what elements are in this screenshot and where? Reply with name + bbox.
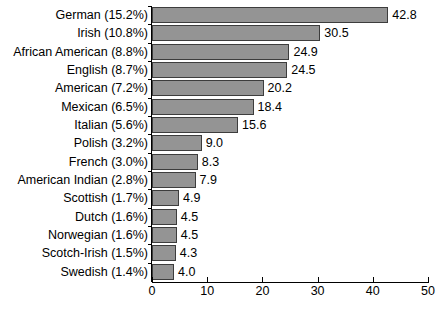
- bar-value-label: 30.5: [324, 27, 348, 40]
- value-axis-tick-label: 30: [311, 285, 325, 298]
- bar-row: French (3.0%)8.3: [152, 153, 428, 171]
- bar: [152, 117, 238, 133]
- bar-row: African American (8.8%)24.9: [152, 43, 428, 61]
- bar-row: English (8.7%)24.5: [152, 61, 428, 79]
- category-label: French (3.0%): [69, 156, 148, 169]
- bar-value-label: 24.5: [291, 64, 315, 77]
- bar: [152, 190, 179, 206]
- bar-value-label: 4.9: [183, 192, 200, 205]
- bar-row: Mexican (6.5%)18.4: [152, 98, 428, 116]
- bar-row: Irish (10.8%)30.5: [152, 24, 428, 42]
- bar: [152, 80, 264, 96]
- bar-value-label: 4.5: [181, 229, 198, 242]
- category-label: English (8.7%): [67, 64, 148, 77]
- bar: [152, 62, 287, 78]
- bar-value-label: 42.8: [392, 9, 416, 22]
- category-tick: [148, 244, 152, 245]
- bar-value-label: 18.4: [258, 101, 282, 114]
- bar: [152, 227, 177, 243]
- value-axis-tick-label: 20: [255, 285, 269, 298]
- bar-row: German (15.2%)42.8: [152, 6, 428, 24]
- bar-rows: German (15.2%)42.8Irish (10.8%)30.5Afric…: [152, 6, 428, 281]
- bar-chart: German (15.2%)42.8Irish (10.8%)30.5Afric…: [0, 0, 440, 309]
- category-label: American (7.2%): [55, 82, 148, 95]
- category-tick: [148, 226, 152, 227]
- bar: [152, 135, 202, 151]
- category-label: Dutch (1.6%): [75, 211, 148, 224]
- bar-value-label: 15.6: [242, 119, 266, 132]
- bar-value-label: 4.5: [181, 211, 198, 224]
- category-tick: [148, 43, 152, 44]
- category-label: Irish (10.8%): [77, 27, 148, 40]
- bar-row: Scotch-Irish (1.5%)4.3: [152, 244, 428, 262]
- value-axis-line: [152, 282, 429, 283]
- value-axis-tick-label: 10: [200, 285, 214, 298]
- category-label: Scotch-Irish (1.5%): [42, 247, 148, 260]
- bar: [152, 172, 196, 188]
- category-tick: [148, 263, 152, 264]
- bar: [152, 25, 320, 41]
- category-tick: [148, 61, 152, 62]
- category-tick: [148, 98, 152, 99]
- value-axis-tick-label: 0: [149, 285, 156, 298]
- bar: [152, 154, 198, 170]
- category-label: Italian (5.6%): [74, 119, 148, 132]
- category-label: Norwegian (1.6%): [48, 229, 148, 242]
- bar-row: American (7.2%)20.2: [152, 79, 428, 97]
- bar-row: American Indian (2.8%)7.9: [152, 171, 428, 189]
- bar-value-label: 20.2: [268, 82, 292, 95]
- category-tick: [148, 79, 152, 80]
- bar-row: Norwegian (1.6%)4.5: [152, 226, 428, 244]
- bar: [152, 209, 177, 225]
- value-axis-tick-labels: 01020304050: [152, 285, 428, 303]
- category-label: African American (8.8%): [13, 46, 148, 59]
- bar-value-label: 24.9: [293, 46, 317, 59]
- bar: [152, 7, 388, 23]
- bar: [152, 44, 289, 60]
- value-axis-tick-label: 50: [421, 285, 435, 298]
- bar-value-label: 7.9: [200, 174, 217, 187]
- category-label: Scottish (1.7%): [63, 192, 148, 205]
- bar-row: Polish (3.2%)9.0: [152, 134, 428, 152]
- category-tick: [148, 24, 152, 25]
- bar: [152, 99, 254, 115]
- bar-row: Dutch (1.6%)4.5: [152, 208, 428, 226]
- category-tick: [148, 208, 152, 209]
- category-tick: [148, 134, 152, 135]
- category-label: Swedish (1.4%): [60, 266, 148, 279]
- bar-value-label: 4.3: [180, 247, 197, 260]
- category-tick: [148, 189, 152, 190]
- category-tick: [148, 6, 152, 7]
- value-axis-tick-label: 40: [366, 285, 380, 298]
- category-tick: [148, 171, 152, 172]
- category-label: Mexican (6.5%): [61, 101, 148, 114]
- bar-value-label: 8.3: [202, 156, 219, 169]
- category-tick: [148, 153, 152, 154]
- category-label: German (15.2%): [56, 9, 148, 22]
- category-label: Polish (3.2%): [74, 137, 148, 150]
- bar-row: Italian (5.6%)15.6: [152, 116, 428, 134]
- bar-value-label: 9.0: [206, 137, 223, 150]
- plot-area: German (15.2%)42.8Irish (10.8%)30.5Afric…: [152, 6, 428, 281]
- bar: [152, 245, 176, 261]
- bar-row: Scottish (1.7%)4.9: [152, 189, 428, 207]
- category-label: American Indian (2.8%): [17, 174, 148, 187]
- category-tick: [148, 116, 152, 117]
